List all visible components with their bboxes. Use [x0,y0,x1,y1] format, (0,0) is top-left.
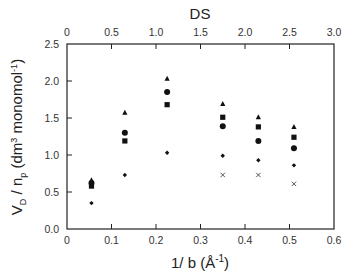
circle-marker [291,145,297,151]
y-tick-label: 2.5 [44,38,59,50]
triangle-marker [256,114,261,119]
y-title-mono: monomol [8,72,25,138]
x-marker [292,182,296,186]
top-tick-label: 2.0 [238,26,253,38]
top-tick-label: 3.0 [327,26,342,38]
y-title-close: ) [8,59,25,64]
x-tick-label: 0 [64,234,70,246]
top-tick-label: 2.5 [282,26,297,38]
diamond-marker [221,154,225,158]
y-tick-label: 0.5 [44,186,59,198]
x-marker [256,173,260,177]
square-marker [291,135,296,140]
bottom-axis-title-close: ) [224,254,229,271]
top-tick-label: 0 [64,26,70,38]
diamond-marker [165,151,169,155]
x-tick-label: 0.6 [327,234,342,246]
circle-marker [255,138,261,144]
y-title-n: / n [8,178,25,199]
circle-marker [122,130,128,136]
top-axis-ticks: 00.51.01.52.02.53.0 [64,26,341,49]
y-tick-label: 1.0 [44,149,59,161]
diamond-marker [292,163,296,167]
x-tick-label: 0.4 [238,234,253,246]
x-tick-label: 0.2 [149,234,164,246]
square-marker [89,183,94,188]
diamond-marker [123,173,127,177]
bottom-axis-title: 1/ b (Å-1) [171,253,229,271]
square-marker [220,115,225,120]
bottom-axis-title-main: 1/ b (Å [171,254,215,271]
diamond-marker [256,158,260,162]
circle-marker [164,89,170,95]
circle-marker [220,123,226,129]
top-tick-label: 0.5 [104,26,119,38]
x-tick-label: 0.5 [282,234,297,246]
x-tick-label: 0.1 [104,234,119,246]
x-tick-label: 0.3 [193,234,208,246]
y-tick-label: 1.5 [44,112,59,124]
triangle-marker [291,124,296,129]
y-title-unit: (dm [8,143,25,173]
top-tick-label: 1.0 [149,26,164,38]
triangle-marker [122,110,127,115]
data-points [88,76,296,206]
bottom-axis-ticks: 00.10.20.30.40.50.6 [64,224,341,246]
square-marker [122,138,127,143]
x-marker [221,173,225,177]
triangle-marker [220,101,225,106]
left-axis-ticks: 0.00.51.01.52.02.5 [44,38,72,235]
scatter-chart: 00.10.20.30.40.50.6 00.51.01.52.02.53.0 … [0,0,351,277]
top-tick-label: 1.5 [193,26,208,38]
y-tick-label: 2.0 [44,75,59,87]
left-axis-title: VD / np (dm3 monomol-1) [8,59,28,215]
square-marker [256,124,261,129]
y-tick-label: 0.0 [44,223,59,235]
diamond-marker [89,201,93,205]
top-axis-title: DS [190,5,211,22]
triangle-marker [165,76,170,81]
y-title-v: V [8,205,25,215]
square-marker [165,102,170,107]
y-title-m1: -1 [9,64,19,72]
